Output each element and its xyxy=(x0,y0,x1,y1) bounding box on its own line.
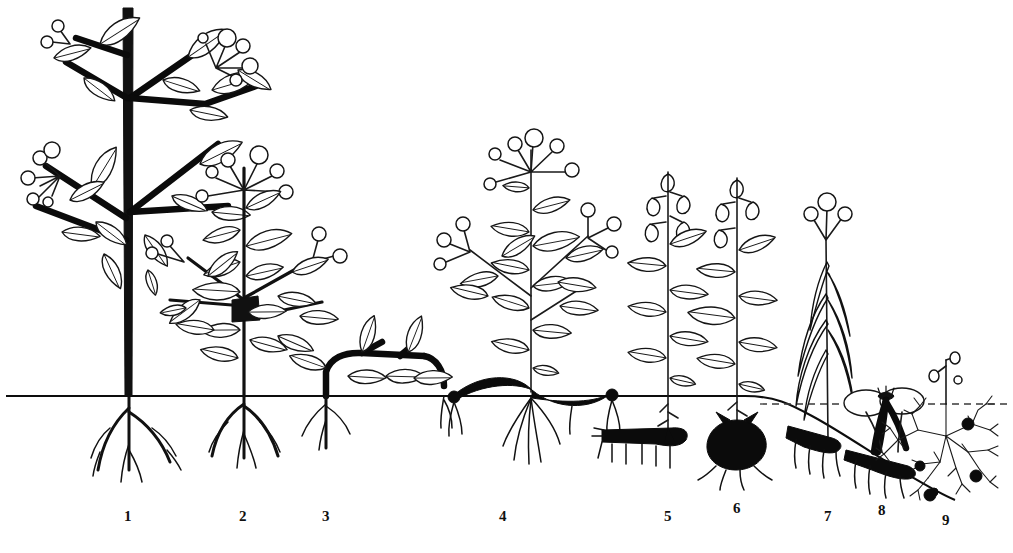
plant-lifeform-figure: 1 2 3 4 5 6 7 8 9 xyxy=(0,0,1013,553)
plant-4-erect-herb-with-rhizome xyxy=(434,129,621,464)
plant-number-labels: 1 2 3 4 5 6 7 8 9 xyxy=(0,508,1013,548)
plant-6-herb-with-bulb xyxy=(686,178,778,490)
root-system xyxy=(302,396,452,450)
plant-9-submerged-aquatic xyxy=(876,352,998,501)
plant-5-herb-with-horizontal-rhizome xyxy=(592,172,709,468)
root-system xyxy=(449,398,620,464)
bulb xyxy=(698,412,772,490)
plant-label-8: 8 xyxy=(878,502,886,519)
plant-label-1: 1 xyxy=(124,508,132,525)
root-system xyxy=(91,396,181,482)
flower-cluster xyxy=(804,193,852,240)
plant-label-4: 4 xyxy=(499,508,507,525)
figure-canvas xyxy=(0,0,1013,553)
plant-label-9: 9 xyxy=(942,512,950,529)
buried-rhizome xyxy=(592,428,687,468)
surface-rhizome xyxy=(448,378,618,406)
plant-label-7: 7 xyxy=(824,508,832,525)
plant-label-2: 2 xyxy=(239,508,247,525)
plant-label-5: 5 xyxy=(664,508,672,525)
plant-label-6: 6 xyxy=(733,500,741,517)
root-system xyxy=(209,396,280,468)
flower-umbel xyxy=(434,217,470,270)
plant-label-3: 3 xyxy=(322,508,330,525)
buried-rhizome xyxy=(786,426,841,478)
plant-3-prostrate-creeping-shrub xyxy=(288,314,453,450)
turion xyxy=(924,489,936,501)
berry-cluster xyxy=(41,20,70,48)
